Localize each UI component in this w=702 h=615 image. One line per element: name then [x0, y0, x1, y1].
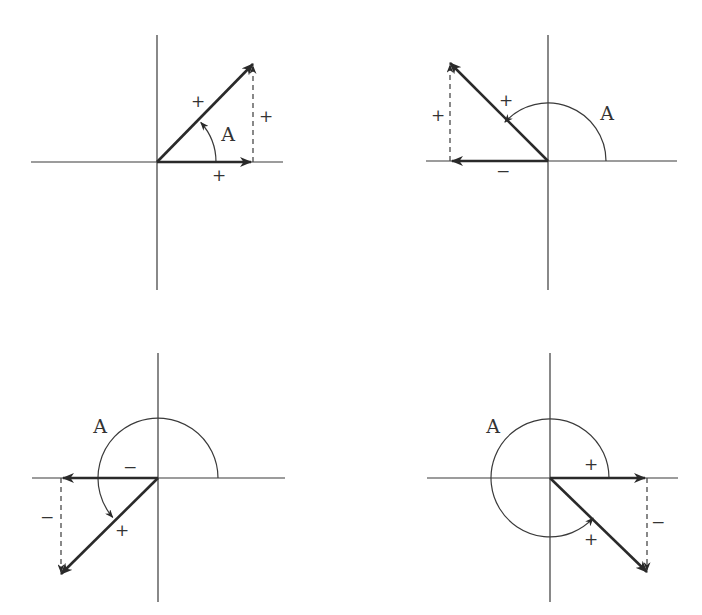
horizontal-sign: −: [496, 161, 510, 181]
hypotenuse-sign: +: [584, 529, 598, 549]
vertical-sign: −: [40, 507, 54, 527]
hypotenuse-sign: +: [499, 90, 513, 110]
horizontal-sign: +: [584, 454, 598, 474]
angle-label: A: [599, 102, 614, 124]
vertical-sign: −: [651, 512, 665, 532]
quadrant-angle-figure: A + + + A + − + A + − − A + +: [0, 0, 702, 615]
radius-vector: [157, 64, 253, 162]
panel-quadrant-2: A + − +: [426, 35, 677, 290]
horizontal-sign: −: [123, 457, 137, 477]
hypotenuse-sign: +: [191, 91, 205, 111]
vertical-sign: +: [431, 105, 445, 125]
vertical-sign: +: [259, 106, 273, 126]
panel-quadrant-4: A + + −: [427, 353, 678, 602]
horizontal-sign: +: [212, 165, 226, 185]
panel-quadrant-1: A + + +: [31, 35, 283, 290]
angle-arc-arrow-icon: [201, 123, 216, 163]
radius-vector: [550, 478, 647, 572]
radius-vector: [61, 478, 158, 574]
radius-vector: [450, 63, 548, 161]
panel-quadrant-3: A + − −: [32, 353, 285, 602]
angle-label: A: [92, 415, 107, 437]
hypotenuse-sign: +: [115, 520, 129, 540]
angle-label: A: [485, 415, 500, 437]
angle-label: A: [220, 123, 235, 145]
